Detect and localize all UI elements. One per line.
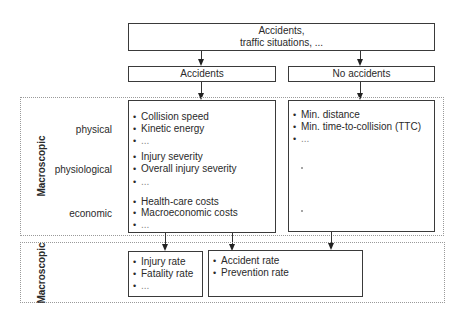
accidents-box: Accidents: [128, 66, 276, 82]
bullet-icon: •: [133, 111, 141, 123]
accidents-label: Accidents: [180, 68, 223, 80]
rate-fatality: •Fatality rate: [133, 268, 193, 280]
bullet-icon: •: [133, 163, 141, 175]
metric-kinetic-energy: •Kinetic energy: [133, 123, 204, 135]
placeholder-dot-economic: [301, 210, 303, 212]
bullet-icon: •: [133, 135, 141, 147]
placeholder-dot-physiological: [301, 167, 303, 169]
bullet-icon: •: [133, 268, 141, 280]
metric-text: Overall injury severity: [141, 163, 237, 174]
metric-physical-more: •...: [133, 135, 149, 147]
bullet-icon: •: [213, 255, 221, 267]
metric-text: Kinetic energy: [141, 123, 204, 134]
bullet-icon: •: [133, 207, 141, 219]
metric-text: ...: [141, 176, 149, 187]
metric-text: Min. distance: [301, 109, 360, 120]
bullet-icon: •: [133, 151, 141, 163]
rate-text: Accident rate: [221, 255, 279, 266]
arrowhead-icon: [357, 59, 363, 66]
metric-text: ...: [301, 133, 309, 144]
metric-min-ttc: •Min. time-to-collision (TTC): [293, 121, 421, 133]
bullet-icon: •: [133, 256, 141, 268]
connector-accidents-down: [201, 82, 202, 93]
rate-more: •...: [133, 280, 149, 292]
rate-injury: •Injury rate: [133, 256, 185, 268]
rate-prevention: •Prevention rate: [213, 267, 289, 279]
metric-text: Health-care costs: [141, 196, 219, 207]
top-box-accidents-traffic-situations: Accidents, traffic situations, ...: [128, 23, 435, 51]
metric-text: ...: [141, 135, 149, 146]
metric-min-distance: •Min. distance: [293, 109, 360, 121]
bullet-icon: •: [213, 267, 221, 279]
top-box-line2: traffic situations, ...: [240, 37, 323, 49]
metric-macroeconomic-costs: •Macroeconomic costs: [133, 207, 238, 219]
metric-text: Injury severity: [141, 151, 203, 162]
metric-economic-more: •...: [133, 219, 149, 231]
connector-no-accidents-down: [360, 82, 361, 93]
row-label-physiological: physiological: [12, 164, 112, 175]
lower-section-label: Macroscopic: [36, 233, 48, 313]
arrowhead-icon: [198, 59, 204, 66]
rate-text: Injury rate: [141, 256, 185, 267]
bullet-icon: •: [293, 109, 301, 121]
metric-physiological-more: •...: [133, 176, 149, 188]
top-box-line1: Accidents,: [258, 25, 304, 37]
bullet-icon: •: [293, 121, 301, 133]
rate-text: ...: [141, 280, 149, 291]
row-label-economic: economic: [12, 208, 112, 219]
metric-text: Min. time-to-collision (TTC): [301, 121, 421, 132]
no-accidents-label: No accidents: [333, 68, 391, 80]
bullet-icon: •: [133, 219, 141, 231]
metric-text: ...: [141, 219, 149, 230]
bullet-icon: •: [293, 133, 301, 145]
rate-text: Prevention rate: [221, 267, 289, 278]
metric-collision-speed: •Collision speed: [133, 111, 209, 123]
no-accidents-box: No accidents: [288, 66, 435, 82]
metric-injury-severity: •Injury severity: [133, 151, 203, 163]
bullet-icon: •: [133, 123, 141, 135]
metric-overall-injury-severity: •Overall injury severity: [133, 163, 237, 175]
row-label-physical: physical: [12, 124, 112, 135]
rate-text: Fatality rate: [141, 268, 193, 279]
metric-no-accidents-more: •...: [293, 133, 309, 145]
rate-accident: •Accident rate: [213, 255, 279, 267]
metric-text: Collision speed: [141, 111, 209, 122]
metric-text: Macroeconomic costs: [141, 207, 238, 218]
bullet-icon: •: [133, 176, 141, 188]
bullet-icon: •: [133, 280, 141, 292]
